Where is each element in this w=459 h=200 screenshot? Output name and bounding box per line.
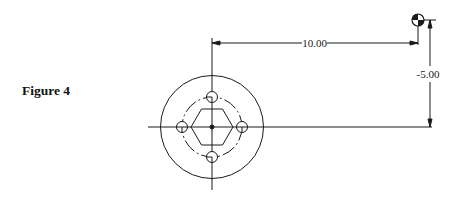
technical-drawing: 10.00 -5.00 [0,0,459,200]
arrowhead-right [410,41,418,45]
arrowhead-left [212,41,220,45]
vertical-dimension-value: -5.00 [417,68,440,80]
center-of-gravity-icon [412,14,424,26]
arrowhead-top [428,20,432,28]
horizontal-dimension-value: 10.00 [302,37,327,49]
arrowhead-bottom [428,119,432,127]
center-point [210,125,214,129]
